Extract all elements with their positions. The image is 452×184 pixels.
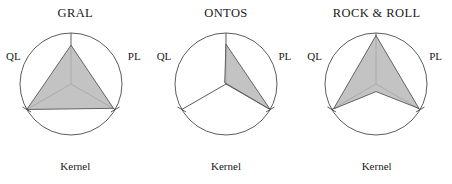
axis-label-pl: PL <box>429 50 442 62</box>
axis-label-ql: QL <box>307 50 322 62</box>
radar-data-polygon <box>334 36 419 109</box>
radar-plot-ontos <box>151 0 302 184</box>
radar-spoke-ql <box>181 84 225 109</box>
kiviat-panel-gral: GRAL QL PL Kernel <box>0 0 151 184</box>
axis-label-ql: QL <box>6 50 21 62</box>
radar-plot-rock-and-roll <box>301 0 452 184</box>
axis-label-kernel: Kernel <box>301 160 452 172</box>
axis-label-kernel: Kernel <box>0 160 151 172</box>
radar-data-polygon <box>27 45 114 109</box>
kiviat-chart-row: GRAL QL PL Kernel ONTOS QL PL Kernel <box>0 0 452 184</box>
kiviat-panel-ontos: ONTOS QL PL Kernel <box>151 0 302 184</box>
kiviat-panel-rock-and-roll: ROCK & ROLL QL PL Kernel <box>301 0 452 184</box>
radar-plot-gral <box>0 0 151 184</box>
axis-label-kernel: Kernel <box>151 160 302 172</box>
axis-label-pl: PL <box>128 50 141 62</box>
axis-label-pl: PL <box>278 50 291 62</box>
axis-label-ql: QL <box>157 50 172 62</box>
radar-data-polygon <box>224 44 269 109</box>
